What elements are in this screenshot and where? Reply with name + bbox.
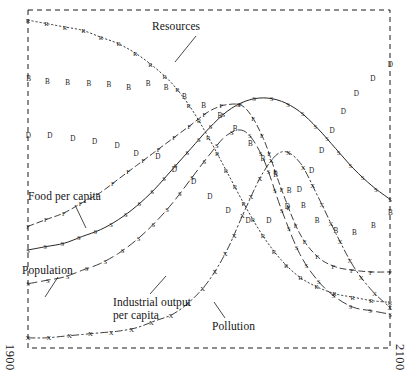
- series-marker: R: [63, 24, 68, 31]
- series-marker: X: [286, 149, 291, 156]
- series-marker: F: [260, 132, 264, 139]
- series-marker: S: [301, 110, 305, 117]
- leader-industrial: [150, 276, 166, 294]
- axis-label-x-start: 1900: [2, 344, 17, 371]
- series-marker: X: [338, 238, 343, 245]
- series-marker: S: [273, 187, 277, 194]
- series-marker: F: [62, 210, 66, 217]
- series-marker: X: [232, 232, 237, 239]
- series-marker: B: [287, 187, 292, 195]
- axis-label-x-end: 2100: [392, 344, 407, 371]
- series-marker: R: [81, 27, 86, 34]
- series-marker: D: [285, 203, 290, 211]
- series-marker: F: [251, 115, 255, 122]
- series-marker: F: [350, 267, 354, 274]
- series-marker: S: [388, 196, 392, 203]
- series-marker: S: [121, 247, 125, 254]
- series-marker: D: [297, 186, 302, 194]
- series-marker: S: [85, 265, 89, 272]
- series-marker: S: [137, 235, 141, 242]
- annotation-population: Population: [22, 264, 73, 277]
- series-marker: S: [202, 158, 206, 165]
- series-marker: F: [220, 102, 224, 109]
- series-marker: R: [351, 294, 356, 301]
- series-marker: S: [361, 174, 365, 181]
- series-marker: D: [155, 153, 160, 161]
- series-marker: S: [388, 311, 392, 318]
- series-marker: F: [203, 111, 207, 118]
- series-marker: S: [104, 258, 108, 265]
- series-marker: D: [370, 75, 375, 83]
- series-marker: S: [124, 211, 128, 218]
- series-marker: S: [337, 149, 341, 156]
- series-marker: B: [273, 171, 278, 179]
- series-marker: X: [26, 334, 31, 341]
- annotation-resources: Resources: [152, 20, 200, 33]
- series-marker: D: [172, 166, 177, 174]
- series-marker: D: [114, 142, 119, 150]
- series-marker: X: [88, 330, 93, 337]
- series-marker: D: [354, 90, 359, 98]
- series-marker: R: [175, 86, 180, 93]
- series-marker: X: [310, 182, 315, 189]
- series-marker: S: [349, 303, 353, 310]
- series-marker: S: [43, 243, 47, 250]
- series-marker: S: [331, 292, 335, 299]
- series-marker: F: [294, 222, 298, 229]
- series-marker: B: [146, 80, 151, 88]
- series-marker: D: [225, 207, 230, 215]
- series-marker: R: [284, 262, 289, 269]
- series-marker: X: [301, 164, 306, 171]
- series-marker: B: [65, 79, 70, 87]
- series-marker: S: [26, 247, 30, 254]
- series-marker: D: [329, 127, 334, 135]
- series-marker: S: [270, 95, 274, 102]
- series-marker: D: [191, 178, 196, 186]
- industrial-output-line2: per capita: [113, 309, 159, 321]
- series-marker: S: [165, 206, 169, 213]
- series-marker: R: [162, 73, 167, 80]
- series-marker: S: [162, 175, 166, 182]
- series-marker: X: [388, 304, 393, 311]
- series-marker: F: [280, 186, 284, 193]
- series-marker: F: [142, 157, 146, 164]
- series-marker: D: [47, 132, 52, 140]
- series-marker: S: [325, 135, 329, 142]
- series-marker: B: [333, 227, 338, 235]
- series-marker: S: [295, 244, 299, 251]
- series-marker: R: [187, 102, 192, 109]
- series-marker: X: [258, 175, 263, 182]
- series-marker: F: [187, 123, 191, 130]
- series-marker: R: [369, 297, 374, 304]
- series-marker: F: [26, 223, 30, 230]
- series-marker: B: [182, 93, 187, 101]
- series-marker: R: [224, 167, 229, 174]
- series-marker: B: [371, 222, 376, 230]
- series-marker: R: [116, 40, 121, 47]
- series-marker: D: [319, 147, 324, 155]
- series-marker: F: [267, 150, 271, 157]
- series-marker: S: [46, 277, 50, 284]
- series-marker: S: [248, 132, 252, 139]
- series-marker: D: [341, 108, 346, 116]
- series-marker: S: [287, 225, 291, 232]
- series-marker: F: [111, 180, 115, 187]
- series-marker: S: [185, 149, 189, 156]
- series-marker: S: [26, 280, 30, 287]
- series-marker: R: [44, 20, 49, 27]
- series-marker: D: [26, 132, 31, 140]
- industrial-output-line1: Industrial output: [113, 296, 191, 308]
- series-marker: D: [92, 138, 97, 146]
- series-marker: X: [212, 268, 217, 275]
- series-marker: B: [45, 78, 50, 86]
- series-pollution: XXXXXXXXXXXXXXXXXXXXXXXXXXX: [26, 149, 393, 341]
- series-marker: R: [272, 248, 277, 255]
- series-marker: S: [368, 307, 372, 314]
- series-marker: S: [280, 207, 284, 214]
- series-marker: R: [26, 17, 31, 24]
- series-marker: R: [99, 34, 104, 41]
- series-marker: X: [372, 290, 377, 297]
- leader-pollution: [214, 302, 225, 318]
- series-marker: R: [261, 232, 266, 239]
- series-marker: X: [129, 326, 134, 333]
